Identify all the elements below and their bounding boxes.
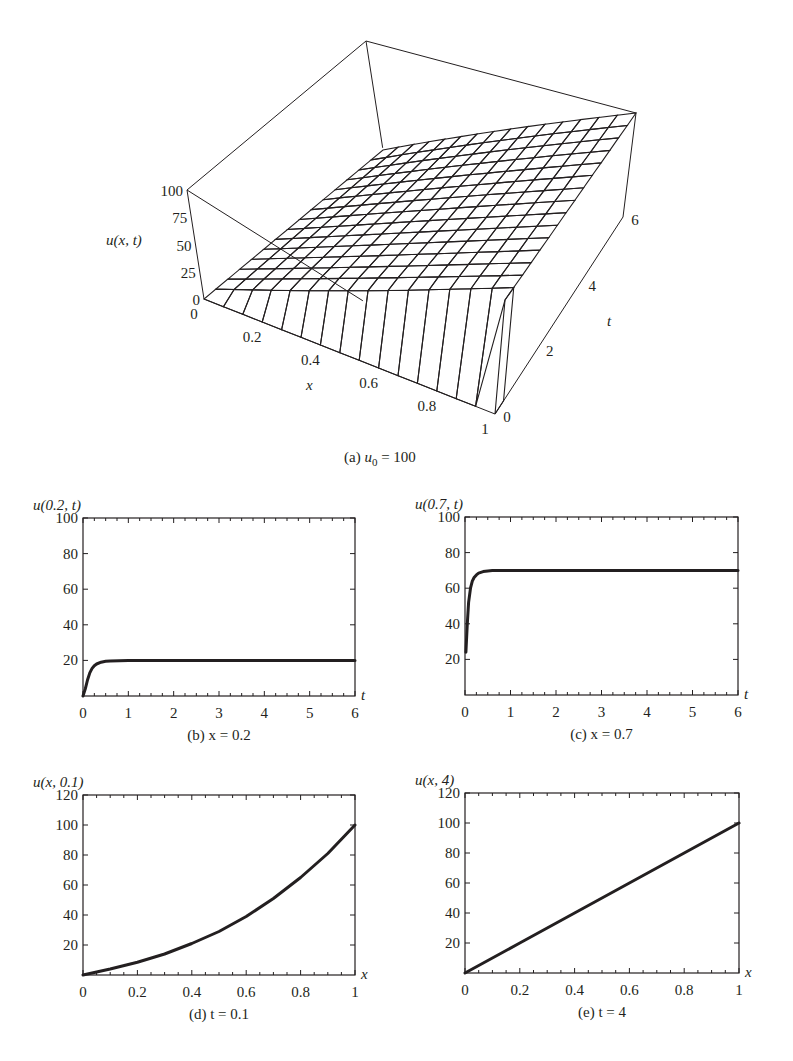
surface-cell [360, 244, 389, 256]
y-tick-label: 60 [445, 580, 460, 596]
x-axis-title: t [744, 686, 749, 702]
surface-cell [519, 238, 549, 251]
x-tick-label: 1 [125, 705, 133, 721]
x-tick-label: 0.8 [291, 984, 310, 1000]
t-tick-label: 2 [546, 343, 554, 359]
surface-cell [331, 256, 361, 268]
y-axis-title: u(x, 4) [415, 772, 454, 789]
surface-cell [501, 263, 531, 276]
y-tick-label: 80 [445, 545, 460, 561]
x-tick-label: 0.4 [301, 352, 320, 368]
box-edge-back-left-vertical [366, 41, 383, 148]
surface-cell [339, 267, 369, 279]
x-tick-label: 0 [461, 982, 469, 998]
surface-cell [398, 290, 429, 384]
surface-cell [312, 257, 342, 268]
3d-box-back-edges [187, 41, 636, 414]
surface-cell [510, 250, 540, 263]
surface-cell [379, 244, 408, 256]
surface-cell [428, 230, 457, 243]
surface-plot-panel-a: 025507510000.20.40.60.810246 u(x, t) x t… [106, 41, 639, 468]
plot-frame [465, 517, 738, 695]
surface-cell [216, 279, 246, 289]
y-tick-label: 80 [63, 847, 78, 863]
caption-b: (b) x = 0.2 [187, 727, 250, 744]
t-axis-title: t [607, 313, 612, 329]
line-plot-panel-e: 00.20.40.60.8120406080100120u(x, 4)x(e) … [415, 772, 752, 1021]
x-axis-title: x [305, 377, 313, 393]
caption-d: (d) t = 0.1 [189, 1006, 249, 1023]
y-tick-label: 100 [438, 815, 461, 831]
line-plot-panel-b: 012345620406080100u(0.2, t)t(b) x = 0.2 [33, 497, 366, 744]
t-tick-label: 4 [589, 278, 597, 294]
surface-cell [301, 268, 331, 279]
x-axis-title: x [360, 966, 368, 982]
surface-cell [379, 290, 409, 376]
x-tick-label: 5 [689, 704, 697, 720]
caption-e: (e) t = 4 [578, 1004, 627, 1021]
data-curve [83, 660, 355, 696]
surface-cell [305, 247, 334, 258]
x-tick-label: 2 [552, 704, 560, 720]
surface-cell [258, 258, 287, 269]
x-tick-label: 5 [306, 705, 314, 721]
x-tick-label: 0.6 [359, 375, 378, 391]
surface-cell [271, 279, 301, 291]
x-tick-label: 0.8 [417, 398, 436, 414]
data-curve [465, 823, 739, 973]
surface-cell [350, 256, 380, 268]
x-axis-title: x [744, 964, 752, 980]
plot-frame [465, 793, 739, 973]
surface-cell [417, 289, 449, 391]
x-tick-label: 1 [351, 984, 359, 1000]
y-axis-title: u(0.2, t) [33, 497, 81, 514]
y-tick-label: 40 [63, 617, 78, 633]
x-tick-label: 0 [190, 306, 198, 322]
x-tick-label: 0.2 [510, 982, 529, 998]
x-tick-label: 3 [215, 705, 223, 721]
x-tick-label: 0 [79, 705, 87, 721]
y-axis-title: u(x, 0.1) [33, 774, 83, 791]
surface-cell [492, 275, 522, 288]
surface-cell [252, 249, 281, 260]
data-curve [83, 825, 355, 975]
surface-cell [528, 225, 558, 238]
surface-cell [240, 259, 269, 269]
y-tick-label: 20 [63, 937, 78, 953]
x-tick-label: 0 [79, 984, 87, 1000]
box-edge-top-back [366, 41, 636, 113]
surface-cell [323, 246, 352, 257]
x-tick-label: 2 [170, 705, 178, 721]
surface-cell [290, 279, 320, 291]
line-plot-panel-d: 00.20.40.60.8120406080100120u(x, 0.1)x(d… [33, 774, 368, 1023]
surface-cell [246, 269, 276, 279]
z-axis-title: u(x, t) [106, 232, 142, 249]
plot-frame [83, 795, 355, 975]
surface-cell [276, 258, 305, 269]
y-tick-label: 20 [445, 935, 460, 951]
x-tick-label: 0 [461, 704, 469, 720]
surface-cell [409, 231, 438, 243]
surface-cell [437, 289, 471, 399]
x-tick-label: 6 [734, 704, 742, 720]
x-tick-label: 0.8 [675, 982, 694, 998]
x-tick-label: 0.2 [243, 329, 262, 345]
x-tick-label: 0.4 [565, 982, 584, 998]
plot-frame [83, 518, 355, 696]
y-tick-label: 80 [445, 845, 460, 861]
x-tick-label: 0.6 [620, 982, 639, 998]
y-tick-label: 40 [445, 905, 460, 921]
y-tick-label: 60 [63, 581, 78, 597]
surface-cell [287, 247, 316, 258]
figure-canvas: 025507510000.20.40.60.810246 u(x, t) x t… [0, 0, 793, 1061]
y-tick-label: 100 [56, 817, 79, 833]
3d-box-front-edges [204, 299, 495, 414]
surface-cell [399, 243, 428, 255]
surface-cell [369, 255, 399, 267]
surface-cell [234, 279, 264, 290]
caption-c: (c) x = 0.7 [570, 726, 633, 743]
surface-cell [608, 113, 636, 128]
surface-cell [390, 232, 419, 244]
y-tick-label: 40 [63, 907, 78, 923]
y-tick-label: 80 [63, 546, 78, 562]
